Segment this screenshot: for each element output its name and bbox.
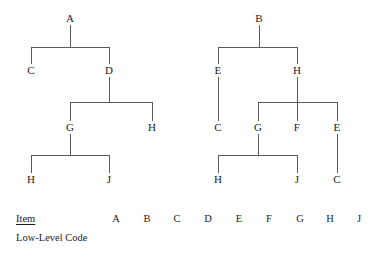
node-label-left-A: A <box>66 13 74 24</box>
edge-group-D-children <box>71 77 153 121</box>
node-label-left-H2: H <box>27 174 35 185</box>
item-column-G: G <box>296 213 304 224</box>
node-label-left-D: D <box>105 65 113 76</box>
node-label-right-F: F <box>294 122 300 133</box>
legend-row-label-item: Item <box>16 213 35 224</box>
node-label-left-J: J <box>107 174 111 185</box>
node-label-right-G: G <box>254 122 262 133</box>
node-label-right-E1: E <box>215 65 222 76</box>
node-label-left-H1: H <box>148 122 156 133</box>
item-column-C: C <box>173 213 180 224</box>
node-label-right-H2: H <box>214 174 222 185</box>
item-column-J: J <box>357 213 361 224</box>
legend-row-label-low-level-code: Low-Level Code <box>16 232 87 243</box>
item-column-E: E <box>236 213 242 224</box>
node-label-right-C1: C <box>214 122 222 133</box>
edge-group-H-children <box>259 77 338 121</box>
item-column-B: B <box>143 213 150 224</box>
node-label-right-H1: H <box>293 65 301 76</box>
node-label-left-G: G <box>66 122 74 133</box>
node-label-right-J: J <box>295 174 299 185</box>
node-label-right-C2: C <box>333 174 341 185</box>
node-label-left-C: C <box>27 65 35 76</box>
item-column-A: A <box>112 213 120 224</box>
item-column-H: H <box>326 213 334 224</box>
node-label-right-B: B <box>255 13 263 24</box>
node-label-right-E2: E <box>334 122 341 133</box>
edge-group-G-children-right <box>219 134 298 173</box>
edge-group-A-children <box>32 25 110 64</box>
tree-edges-canvas <box>0 0 379 260</box>
edge-group-B-children <box>219 25 298 64</box>
item-column-F: F <box>266 213 272 224</box>
bom-tree-diagram: A C D G H H J B E H C G F E H J C Item L… <box>0 0 379 260</box>
item-column-D: D <box>204 213 212 224</box>
edge-group-G-children-left <box>32 134 110 173</box>
